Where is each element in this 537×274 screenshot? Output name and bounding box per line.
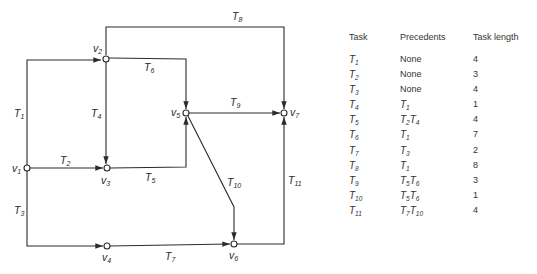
task-cell: T7 [349, 145, 359, 157]
precedents-cell: T5T6 [400, 190, 419, 202]
edge-label-t3: T3 [14, 204, 24, 217]
precedents-cell: T1 [400, 99, 410, 111]
task-cell: T8 [349, 160, 359, 172]
task-cell: T11 [349, 205, 362, 217]
task-length-cell: 4 [473, 54, 478, 64]
precedents-cell: None [400, 54, 422, 64]
task-length-cell: 8 [473, 160, 478, 170]
task-cell: T1 [349, 54, 359, 66]
node-label-v7: v7 [290, 106, 300, 119]
task-network-diagram: v1 v2 v3 v4 v5 v6 v7 T1 T2 T3 T4 T5 T6 T… [0, 0, 537, 274]
edge-t11 [237, 117, 284, 244]
node-v2 [103, 56, 109, 62]
task-cell: T4 [349, 99, 359, 111]
precedents-cell: None [400, 84, 422, 94]
edge-label-t11: T11 [288, 174, 302, 187]
header-task-length: Task length [473, 32, 519, 42]
task-cell: T3 [349, 84, 359, 96]
edge-label-t8: T8 [232, 10, 242, 23]
figure-caption-clipped [120, 268, 410, 274]
precedents-cell: T7T10 [400, 205, 423, 217]
task-length-cell: 4 [473, 114, 478, 124]
node-label-v3: v3 [101, 174, 110, 187]
edge-t3 [27, 171, 103, 246]
edge-label-t10: T10 [227, 176, 241, 189]
task-length-cell: 2 [473, 145, 478, 155]
header-task: Task [349, 32, 368, 42]
node-v3 [104, 165, 110, 171]
node-v7 [281, 110, 287, 116]
task-length-cell: 4 [473, 205, 478, 215]
edge-label-t7: T7 [165, 250, 176, 263]
task-length-cell: 3 [473, 69, 478, 79]
node-v6 [231, 241, 237, 247]
edge-label-t2: T2 [60, 154, 70, 167]
task-length-cell: 1 [473, 99, 478, 109]
precedents-cell: T1 [400, 129, 410, 141]
edge-label-t9: T9 [230, 96, 240, 109]
node-v5 [183, 110, 189, 116]
edge-t1 [27, 60, 101, 168]
task-cell: T6 [349, 129, 359, 141]
task-length-cell: 7 [473, 129, 478, 139]
node-v1 [24, 165, 30, 171]
task-cell: T2 [349, 69, 359, 81]
edge-t8 [106, 27, 284, 109]
precedents-cell: T5T6 [400, 175, 419, 187]
task-cell: T5 [349, 114, 359, 126]
edge-t5 [110, 117, 186, 168]
task-length-cell: 4 [473, 84, 478, 94]
edge-t7 [110, 244, 230, 246]
node-v4 [104, 243, 110, 249]
node-label-v6: v6 [229, 249, 238, 262]
task-cell: T10 [349, 190, 362, 202]
edge-label-t5: T5 [145, 171, 155, 184]
node-label-v2: v2 [93, 42, 102, 55]
task-cell: T9 [349, 175, 359, 187]
task-length-cell: 1 [473, 190, 478, 200]
precedents-cell: T2T4 [400, 114, 419, 126]
node-label-v5: v5 [171, 106, 180, 119]
precedents-cell: T3 [400, 145, 410, 157]
precedents-cell: None [400, 69, 422, 79]
node-label-v4: v4 [102, 251, 111, 264]
header-precedents: Precedents [400, 32, 446, 42]
task-length-cell: 3 [473, 175, 478, 185]
node-label-v1: v1 [12, 162, 21, 175]
edge-label-t1: T1 [14, 107, 24, 120]
edge-label-t6: T6 [144, 61, 154, 74]
precedents-cell: T1 [400, 160, 410, 172]
edge-label-t4: T4 [91, 107, 101, 120]
